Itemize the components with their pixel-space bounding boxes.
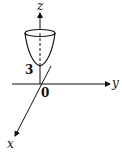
diagram: z y x 0 3: [0, 0, 122, 153]
x-axis-label: x: [7, 137, 14, 151]
y-axis-label: y: [111, 76, 119, 90]
origin-label: 0: [41, 86, 49, 100]
z-axis-label: z: [36, 0, 44, 13]
vertex-label: 3: [25, 63, 33, 77]
